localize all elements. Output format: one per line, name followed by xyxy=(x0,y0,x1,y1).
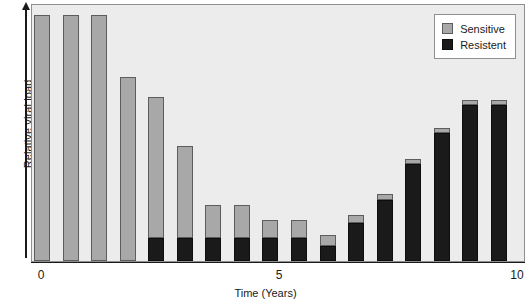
bar xyxy=(491,100,507,261)
bar-segment-resistant xyxy=(262,238,278,261)
bar xyxy=(177,146,193,261)
bar xyxy=(34,15,50,261)
bar-segment-resistant xyxy=(177,238,193,261)
bar-segment-sensitive xyxy=(91,15,107,261)
bar-segment-sensitive xyxy=(205,205,221,238)
bar xyxy=(120,77,136,261)
legend-swatch-sensitive xyxy=(442,23,453,34)
bar-segment-resistant xyxy=(148,238,164,261)
legend-item-resistant: Resistent xyxy=(442,37,506,52)
bar xyxy=(205,205,221,261)
bar xyxy=(148,97,164,261)
bar-segment-sensitive xyxy=(63,15,79,261)
bar-segment-sensitive xyxy=(320,235,336,245)
bar xyxy=(291,220,307,261)
bar-segment-resistant xyxy=(462,105,478,261)
x-tick-label: 5 xyxy=(276,268,283,282)
plot-area: Sensitive Resistent xyxy=(31,4,525,262)
bar xyxy=(234,205,250,261)
bar xyxy=(320,235,336,261)
legend-label-sensitive: Sensitive xyxy=(460,23,505,35)
bar-segment-resistant xyxy=(205,238,221,261)
bar-segment-resistant xyxy=(377,200,393,261)
bar-segment-resistant xyxy=(405,164,421,261)
bar xyxy=(462,100,478,261)
bar xyxy=(348,215,364,261)
bar-segment-sensitive xyxy=(262,220,278,238)
bar xyxy=(262,220,278,261)
x-axis-line xyxy=(31,262,525,263)
legend-label-resistant: Resistent xyxy=(460,39,506,51)
bar-segment-sensitive xyxy=(348,215,364,223)
bar-segment-resistant xyxy=(491,105,507,261)
bar-segment-resistant xyxy=(434,133,450,261)
bar xyxy=(63,15,79,261)
bar xyxy=(377,194,393,261)
x-tick-label: 10 xyxy=(510,268,523,282)
bar-segment-resistant xyxy=(348,223,364,261)
legend-swatch-resistant xyxy=(442,39,453,50)
bar-segment-sensitive xyxy=(177,146,193,238)
chart-figure: Relative viral load Sensitive Resistent … xyxy=(0,0,531,303)
legend-item-sensitive: Sensitive xyxy=(442,21,506,36)
bar-segment-resistant xyxy=(234,238,250,261)
chart-legend: Sensitive Resistent xyxy=(434,14,516,59)
bar-segment-resistant xyxy=(291,238,307,261)
x-axis-label: Time (Years) xyxy=(0,287,531,299)
bar-segment-resistant xyxy=(320,246,336,261)
bar-segment-sensitive xyxy=(148,97,164,238)
x-tick-label: 0 xyxy=(38,268,45,282)
bar xyxy=(434,128,450,261)
bar xyxy=(405,159,421,261)
bar xyxy=(91,15,107,261)
bar-segment-sensitive xyxy=(34,15,50,261)
bar-segment-sensitive xyxy=(291,220,307,238)
bar-segment-sensitive xyxy=(234,205,250,238)
bar-segment-sensitive xyxy=(120,77,136,261)
